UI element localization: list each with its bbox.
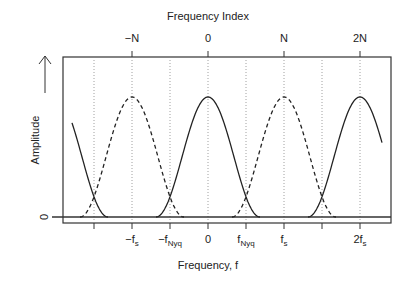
solid-spectrum-curve: [72, 123, 108, 217]
solid-spectrum-curve: [308, 97, 382, 217]
top-tick-label: 2N: [353, 32, 367, 44]
top-tick-label: 0: [205, 32, 211, 44]
bottom-tick-label: 0: [205, 233, 211, 245]
top-tick-label: −N: [125, 32, 139, 44]
bottom-tick-label: 2fs: [353, 233, 366, 245]
spectrum-curves: [72, 97, 382, 217]
y-axis-title: Amplitude: [29, 116, 41, 165]
bottom-tick-label: fNyq: [237, 233, 254, 245]
dotted-gridlines: [94, 57, 360, 223]
amplitude-arrow-icon: [39, 56, 51, 93]
plot-frame: [63, 57, 391, 223]
top-tick-label: N: [280, 32, 288, 44]
bottom-tick-label: −fNyq: [158, 233, 182, 245]
y-tick-zero: 0: [38, 214, 50, 220]
bottom-tick-label: −fs: [125, 233, 138, 245]
bottom-axis-title: Frequency, f: [178, 259, 238, 271]
top-axis-title: Frequency Index: [167, 10, 249, 22]
bottom-tick-label: fs: [280, 233, 287, 245]
